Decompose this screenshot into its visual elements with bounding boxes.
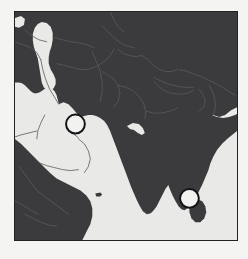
map-marker-palk-strait[interactable] [180,189,199,208]
map-figure [0,0,248,259]
map-frame [14,11,238,241]
map-canvas[interactable] [15,12,237,240]
map-marker-persian-gulf[interactable] [66,115,85,134]
